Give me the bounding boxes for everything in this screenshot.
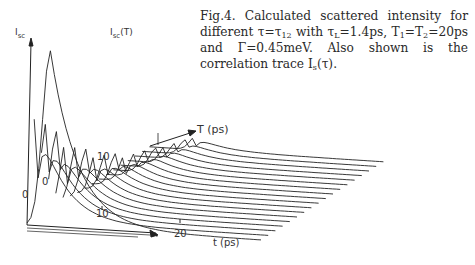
pulse-curve — [121, 148, 355, 180]
x-tick-10: 10 — [96, 208, 109, 219]
z-tick-0: 0 — [42, 176, 48, 187]
z-axis-arrow-icon — [188, 130, 196, 136]
pulse-curve — [27, 51, 261, 240]
z-axis — [150, 133, 190, 146]
x-axis-label: t (ps) — [213, 237, 239, 248]
pulse-curves — [27, 51, 383, 240]
caption-text: (τ). — [317, 57, 337, 71]
y-axis-label: Isc — [15, 27, 25, 40]
z-axis-label: T (ps) — [197, 123, 229, 136]
caption-sub: 12 — [281, 31, 291, 40]
y-axis-arrow-icon — [29, 38, 33, 46]
figure-caption: Fig.4. Calculated scattered intensity fo… — [200, 8, 468, 72]
pulse-curve — [99, 158, 333, 194]
pulse-curve — [113, 151, 347, 185]
pulse-curve — [128, 148, 362, 176]
y-label-sub: sc — [18, 32, 26, 40]
origin-label: 0 — [22, 189, 28, 200]
trace-label: Isc(T) — [110, 27, 133, 40]
caption-text: with τ — [292, 25, 335, 39]
caption-text: τ=τ — [258, 25, 282, 39]
caption-text: =1.4ps, T — [340, 25, 400, 39]
z-tick-10: 10 — [97, 151, 110, 162]
x-tick-20: 20 — [174, 228, 187, 239]
trace-label-arg: (T) — [120, 27, 133, 37]
caption-text: =T — [405, 25, 423, 39]
figure-number: Fig.4. — [200, 9, 236, 23]
